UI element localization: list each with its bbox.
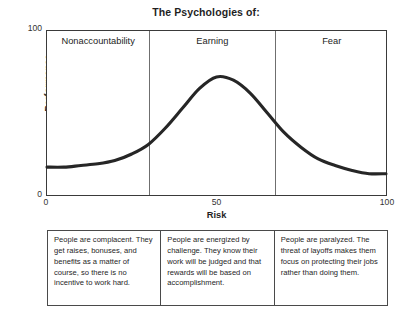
zone-description-nonaccountability: People are complacent. They get raises, … — [48, 231, 161, 305]
page-title: The Psychologies of: — [0, 6, 412, 18]
zone-description-earning: People are energized by challenge. They … — [161, 231, 274, 305]
x-axis-tick-0: 0 — [31, 197, 61, 207]
chart-figure: The Psychologies of: 100 0 Performance N… — [0, 0, 412, 312]
curve-path — [47, 76, 386, 173]
zone-description-table: People are complacent. They get raises, … — [47, 230, 388, 306]
performance-curve — [47, 31, 386, 195]
plot-area: Nonaccountability Earning Fear — [46, 30, 387, 196]
x-axis-label: Risk — [46, 210, 387, 220]
x-axis-tick-100: 100 — [372, 197, 402, 207]
x-axis-tick-50: 50 — [202, 197, 232, 207]
y-axis-tick-100: 100 — [22, 23, 42, 33]
zone-description-fear: People are paralyzed. The threat of layo… — [275, 231, 387, 305]
